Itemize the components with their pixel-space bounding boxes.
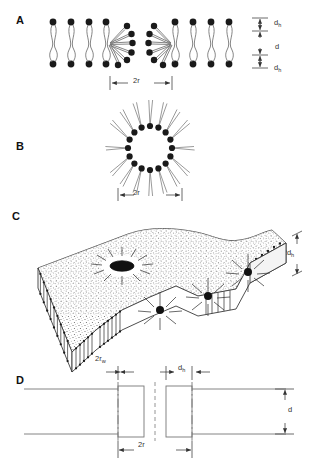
panel-b-head-dots [125,123,175,173]
panel-c-pore-lumen [110,261,134,271]
panel-d-d-dimension [275,389,294,434]
panel-d-right-leaflets [192,389,286,434]
lipid-radial [149,170,153,196]
panel-b-drawing [105,100,194,201]
panel-d-drawing [24,366,294,458]
lipid-radial [133,102,142,127]
panel-a-2r-dimension [110,76,172,90]
lipid [226,19,234,68]
lipid [208,19,216,68]
panel-d-2rw-dimension [106,366,134,380]
panel-c-drawing [38,226,302,372]
panel-a-dimension-stack [252,18,268,68]
lipid-radial [149,100,153,126]
figure-drawing [0,0,309,466]
lipid [50,19,58,68]
lipid-radial [120,110,134,133]
panel-d-left-leaflets [24,389,118,434]
lipid-radial [166,164,180,187]
panel-c-thickness-dimension [292,231,302,276]
panel-d-right-block [166,386,192,437]
lipid-radial [158,168,167,193]
lipid-radial [105,147,128,151]
lipid [172,19,180,68]
panel-d-2r-dimension [118,441,192,458]
panel-a-left-cluster [50,19,136,69]
lipid-radial [133,168,142,193]
figure-container: A B C D dh d dh 2r 2r d + 2dh 2rw dh d 2… [0,0,309,466]
lipid-radial [158,102,167,127]
panel-a-right-fan [145,23,172,68]
panel-d-left-block [118,386,144,437]
lipid [103,19,111,68]
lipid-radial [170,156,189,176]
lipid-radial [110,120,129,140]
lipid-radial [172,147,195,151]
lipid [68,19,76,68]
panel-b-ring [105,100,194,196]
panel-b-2r-dimension [118,188,182,201]
lipid-radial [110,156,129,176]
lipid [86,19,94,68]
lipid [190,19,198,68]
panel-a-left-fan [109,23,136,68]
lipid-radial [170,120,189,140]
panel-a-drawing [50,18,268,90]
panel-a-right-cluster [145,19,233,69]
lipid-radial [166,110,180,133]
panel-d-dh-dimension [160,366,210,380]
lipid-radial [120,164,134,187]
